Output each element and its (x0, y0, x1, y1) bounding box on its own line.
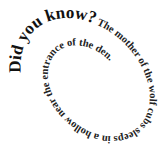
spiral-text: Did you know? The mother of the wolf cub… (6, 3, 159, 145)
fact-text: The mother of the wolf cubs sleeps in a … (39, 15, 159, 145)
spiral-text-graphic: Did you know? The mother of the wolf cub… (0, 0, 166, 159)
